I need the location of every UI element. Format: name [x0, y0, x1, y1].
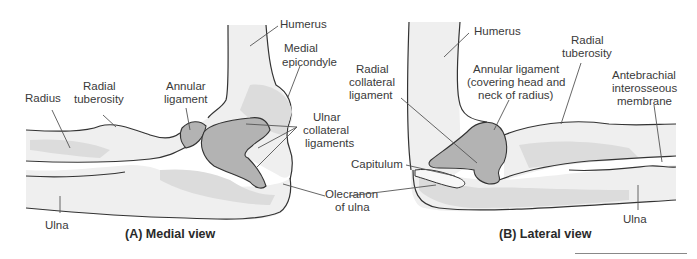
label-antebrachial-line3: membrane: [617, 95, 672, 108]
label-annular-ligament-line3: neck of radius): [478, 89, 553, 102]
label-radius: Radius: [25, 92, 61, 105]
label-radial-tuberosity-line1: Radial: [571, 34, 604, 47]
label-annular-ligament-line2: (covering head and: [467, 76, 565, 89]
label-antebrachial-line1: Antebrachial: [612, 69, 676, 82]
label-humerus: Humerus: [474, 25, 521, 38]
label-annular-ligament-line1: Annular: [166, 80, 206, 93]
caption-lateral-view: (B) Lateral view: [499, 227, 591, 241]
label-humerus: Humerus: [280, 18, 327, 31]
label-ulna: Ulna: [45, 219, 69, 232]
lateral-view-panel: Humerus Radial collateral ligament Annul…: [349, 0, 697, 259]
label-ulnar-collateral-line3: ligaments: [305, 137, 354, 150]
label-medial-epicondyle-line1: Medial: [284, 42, 318, 55]
label-radial-tuberosity-line2: tuberosity: [74, 93, 124, 106]
label-medial-epicondyle-line2: epicondyle: [282, 56, 337, 69]
label-annular-ligament-line1: Annular ligament: [473, 63, 559, 76]
label-ulnar-collateral-line1: Ulnar: [313, 111, 340, 124]
label-radial-tuberosity-line2: tuberosity: [562, 47, 612, 60]
divider-line: [575, 253, 687, 254]
label-radial-tuberosity-line1: Radial: [83, 80, 116, 93]
label-annular-ligament-line2: ligament: [164, 93, 207, 106]
label-radial-collateral-line1: Radial: [356, 63, 389, 76]
label-radial-collateral-line3: ligament: [349, 89, 392, 102]
label-capitulum: Capitulum: [351, 158, 403, 171]
medial-view-panel: Humerus Medial epicondyle Radius Radial …: [0, 0, 348, 259]
label-antebrachial-line2: interosseous: [612, 82, 677, 95]
label-ulnar-collateral-line2: collateral: [303, 124, 349, 137]
label-radial-collateral-line2: collateral: [349, 76, 395, 89]
label-ulna: Ulna: [623, 213, 647, 226]
caption-medial-view: (A) Medial view: [125, 227, 215, 241]
